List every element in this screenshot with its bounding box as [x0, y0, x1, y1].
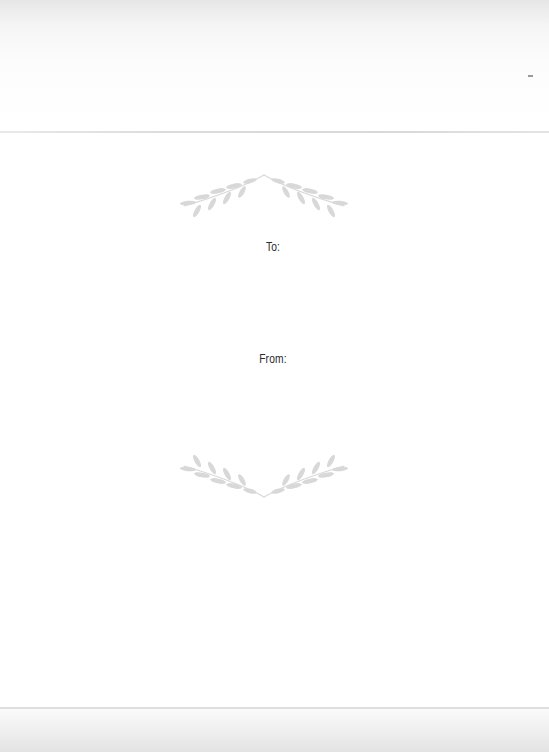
- from-label: From:: [48, 352, 498, 366]
- scan-mark: [528, 75, 533, 77]
- scanned-paper-top-edge: [0, 0, 549, 132]
- laurel-bottom-icon: [178, 442, 350, 500]
- to-label: To:: [48, 240, 498, 254]
- scanned-paper-bottom-edge: [0, 709, 549, 752]
- laurel-top-icon: [178, 172, 350, 230]
